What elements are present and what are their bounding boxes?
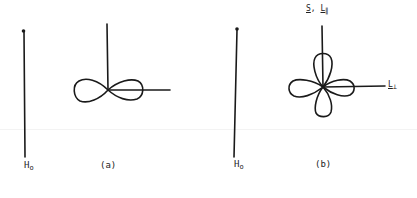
panel-b-horizontal-axis-label: L⊥ <box>388 80 397 90</box>
figure: Ho (a) Ho (b) S, L∥ L⊥ <box>0 0 417 198</box>
panel-b-field-label: Ho <box>234 159 244 170</box>
field-subscript: o <box>29 164 33 172</box>
parallel-subscript: ∥ <box>325 7 329 15</box>
panel-b-axes <box>322 26 385 87</box>
panel-b-vertical-axis-label: S, L∥ <box>306 4 329 14</box>
panel-a-field-label: Ho <box>24 160 34 171</box>
panel-a-axes <box>107 24 170 90</box>
perpendicular-subscript: ⊥ <box>393 83 397 91</box>
panel-a-field-arrow <box>22 29 26 157</box>
label-separator: , <box>311 4 316 13</box>
panel-b-orbital-lobes <box>289 54 354 117</box>
field-subscript: o <box>239 163 243 171</box>
diagram-drawing <box>0 0 417 198</box>
panel-b-caption: (b) <box>315 159 331 169</box>
panel-b-field-arrow <box>234 27 239 157</box>
panel-a-caption: (a) <box>100 160 116 170</box>
